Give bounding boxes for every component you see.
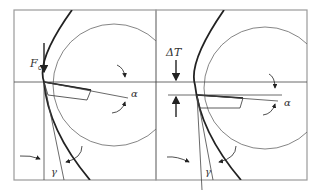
feed-arrow (167, 157, 189, 162)
clearance-angle-label: α (131, 88, 138, 99)
clearance-line (197, 95, 278, 101)
tool-insert (44, 82, 91, 100)
clearance-line (44, 82, 128, 98)
feed-arrow (20, 156, 40, 159)
rake-angle-label: γ (51, 166, 57, 177)
force-subscript: c (38, 64, 42, 71)
rotation-arrow-bottom (112, 102, 125, 113)
rake-angle-label: γ (205, 166, 211, 177)
left-panel (14, 10, 175, 180)
wheel-circle (53, 24, 175, 146)
diagram-canvas: F c α γ ΔT α γ (0, 0, 318, 194)
right-panel (156, 10, 318, 180)
offset-label: ΔT (165, 46, 183, 59)
rotation-arrow-top (117, 65, 125, 77)
rotation-arrow-top (269, 74, 275, 88)
force-label: F (29, 57, 38, 70)
wheel-circle (204, 27, 318, 149)
clearance-angle-label: α (284, 97, 291, 108)
rotation-arrow-bottom (263, 104, 275, 115)
